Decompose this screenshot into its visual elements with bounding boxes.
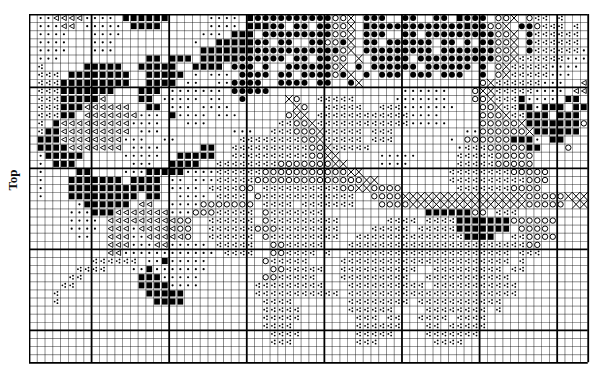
three-dot-cluster-icon bbox=[450, 178, 455, 183]
three-dot-cluster-icon bbox=[488, 242, 493, 247]
filled-circle-icon bbox=[239, 72, 245, 78]
cross-hatch-icon bbox=[495, 103, 503, 111]
small-dot-icon bbox=[171, 98, 173, 100]
open-circle-icon bbox=[271, 177, 276, 182]
open-triangle-icon bbox=[108, 242, 113, 247]
filled-circle-icon bbox=[433, 56, 439, 62]
three-dot-cluster-icon bbox=[356, 121, 361, 126]
open-triangle-icon bbox=[108, 105, 113, 110]
filled-square-icon bbox=[170, 290, 176, 296]
three-dot-cluster-icon bbox=[333, 129, 338, 134]
filled-circle-icon bbox=[379, 15, 385, 21]
cross-hatch-icon bbox=[580, 192, 588, 200]
open-circle-icon bbox=[178, 218, 183, 223]
cross-hatch-icon bbox=[339, 160, 347, 168]
small-dot-icon bbox=[203, 268, 205, 270]
small-dot-icon bbox=[381, 155, 383, 157]
filled-square-icon bbox=[84, 193, 90, 199]
open-circle-icon bbox=[286, 113, 291, 118]
small-dot-icon bbox=[102, 17, 104, 19]
cross-hatch-icon bbox=[308, 119, 316, 127]
three-dot-cluster-icon bbox=[488, 275, 493, 280]
open-triangle-icon bbox=[155, 234, 160, 239]
filled-square-icon bbox=[123, 72, 129, 78]
small-dot-icon bbox=[234, 130, 236, 132]
filled-circle-icon bbox=[286, 39, 292, 45]
three-dot-cluster-icon bbox=[519, 113, 524, 118]
open-circle-icon bbox=[542, 202, 547, 207]
three-dot-cluster-icon bbox=[488, 267, 493, 272]
open-circle-icon bbox=[496, 161, 501, 166]
cross-hatch-icon bbox=[495, 192, 503, 200]
filled-circle-icon bbox=[480, 47, 486, 53]
three-dot-cluster-icon bbox=[473, 259, 478, 264]
three-dot-cluster-icon bbox=[372, 307, 377, 312]
filled-square-icon bbox=[84, 185, 90, 191]
filled-circle-icon bbox=[387, 39, 393, 45]
filled-square-icon bbox=[208, 56, 214, 62]
cross-hatch-icon bbox=[440, 200, 448, 208]
open-circle-icon bbox=[178, 226, 183, 231]
filled-circle-icon bbox=[480, 39, 486, 45]
three-dot-cluster-icon bbox=[387, 283, 392, 288]
small-dot-icon bbox=[140, 252, 142, 254]
filled-square-icon bbox=[558, 137, 564, 143]
three-dot-cluster-icon bbox=[426, 234, 431, 239]
filled-square-icon bbox=[53, 153, 59, 159]
small-dot-icon bbox=[210, 25, 212, 27]
filled-square-icon bbox=[457, 218, 463, 224]
small-dot-icon bbox=[55, 25, 57, 27]
open-circle-icon bbox=[372, 185, 377, 190]
filled-square-icon bbox=[558, 112, 564, 118]
three-dot-cluster-icon bbox=[395, 242, 400, 247]
filled-circle-icon bbox=[317, 47, 323, 53]
three-dot-cluster-icon bbox=[434, 340, 439, 345]
three-dot-cluster-icon bbox=[434, 218, 439, 223]
open-triangle-icon bbox=[62, 121, 67, 126]
three-dot-cluster-icon bbox=[232, 226, 237, 231]
three-dot-cluster-icon bbox=[302, 242, 307, 247]
filled-circle-icon bbox=[379, 31, 385, 37]
filled-circle-icon bbox=[472, 56, 478, 62]
filled-square-icon bbox=[139, 15, 145, 21]
orientation-label-text: Top bbox=[5, 169, 21, 190]
small-dot-icon bbox=[210, 17, 212, 19]
open-triangle-icon bbox=[155, 210, 160, 215]
small-dot-icon bbox=[148, 114, 150, 116]
small-dot-icon bbox=[234, 17, 236, 19]
small-dot-icon bbox=[536, 106, 538, 108]
small-dot-icon bbox=[203, 122, 205, 124]
three-dot-cluster-icon bbox=[512, 178, 517, 183]
filled-square-icon bbox=[465, 226, 471, 232]
small-dot-icon bbox=[187, 252, 189, 254]
open-circle-icon bbox=[480, 129, 485, 134]
three-dot-cluster-icon bbox=[380, 307, 385, 312]
filled-square-icon bbox=[38, 145, 44, 151]
cross-hatch-icon bbox=[510, 192, 518, 200]
filled-square-icon bbox=[224, 39, 230, 45]
three-dot-cluster-icon bbox=[209, 226, 214, 231]
open-triangle-icon bbox=[162, 226, 167, 231]
small-dot-icon bbox=[148, 155, 150, 157]
three-dot-cluster-icon bbox=[488, 161, 493, 166]
three-dot-cluster-icon bbox=[341, 259, 346, 264]
three-dot-cluster-icon bbox=[395, 234, 400, 239]
small-dot-icon bbox=[203, 252, 205, 254]
small-dot-icon bbox=[55, 41, 57, 43]
open-triangle-icon bbox=[139, 218, 144, 223]
three-dot-cluster-icon bbox=[271, 218, 276, 223]
open-circle-icon bbox=[279, 250, 284, 255]
filled-square-icon bbox=[177, 153, 183, 159]
filled-square-icon bbox=[527, 145, 533, 151]
three-dot-cluster-icon bbox=[349, 113, 354, 118]
filled-square-icon bbox=[441, 209, 447, 215]
three-dot-cluster-icon bbox=[457, 331, 462, 336]
three-dot-cluster-icon bbox=[442, 291, 447, 296]
three-dot-cluster-icon bbox=[372, 129, 377, 134]
three-dot-cluster-icon bbox=[496, 283, 501, 288]
filled-square-icon bbox=[84, 96, 90, 102]
three-dot-cluster-icon bbox=[403, 299, 408, 304]
three-dot-cluster-icon bbox=[232, 186, 237, 191]
filled-square-icon bbox=[108, 80, 114, 86]
filled-circle-icon bbox=[387, 72, 393, 78]
